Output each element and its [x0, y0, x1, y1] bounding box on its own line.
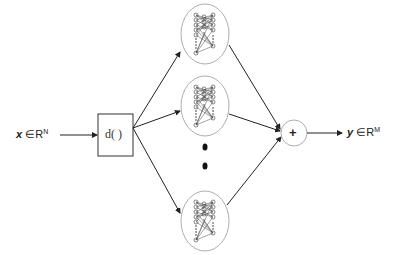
dropout-label: d( )	[105, 127, 122, 142]
output-symbol: ∈	[356, 126, 366, 138]
diagram-canvas	[0, 0, 396, 255]
input-label: x ∈RN	[16, 128, 48, 141]
adder-label: +	[289, 125, 297, 140]
input-space: R	[35, 128, 43, 140]
output-space: R	[366, 126, 374, 138]
output-var: y	[347, 126, 353, 138]
output-dim: M	[374, 126, 380, 133]
arrow-to-net-3	[133, 128, 180, 213]
ellipsis-dot-2	[203, 163, 208, 170]
output-label: y ∈RM	[347, 126, 380, 139]
input-dim: N	[43, 128, 48, 135]
network-1	[181, 4, 229, 64]
arrow-from-net-3	[227, 137, 281, 205]
network-2	[181, 76, 229, 136]
arrow-to-net-2	[133, 111, 180, 128]
input-var: x	[16, 128, 22, 140]
network-3	[181, 191, 229, 251]
arrow-to-net-1	[133, 52, 180, 128]
ellipsis-dot-1	[203, 144, 208, 151]
input-symbol: ∈	[25, 128, 35, 140]
